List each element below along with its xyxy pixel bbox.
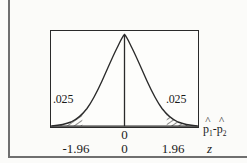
page-border-left-rule — [8, 0, 10, 157]
phat-two: ^p2 — [217, 122, 227, 138]
z-axis-tick-positive: 1.96 — [162, 141, 185, 157]
phat-one: ^p1 — [203, 122, 213, 138]
phat-two-subscript: 2 — [223, 129, 227, 138]
hat-accent-icon: ^ — [219, 115, 224, 126]
normal-curve-plot — [50, 30, 199, 128]
left-tail-area-label: .025 — [53, 92, 73, 107]
statistics-figure: .025 .025 0 -1.96 0 1.96 ^p1-^p2 z — [0, 0, 247, 163]
phat-difference-axis-label: ^p1-^p2 — [203, 122, 226, 138]
z-axis-label: z — [207, 141, 212, 157]
left-tail-shaded-region — [53, 114, 82, 126]
right-tail-shaded-region — [167, 114, 196, 126]
z-axis-tick-negative: -1.96 — [62, 141, 89, 157]
z-axis-tick-zero: 0 — [121, 141, 128, 157]
phat-one-subscript: 1 — [209, 129, 213, 138]
z-axis-tick-row: -1.96 0 1.96 — [50, 141, 199, 157]
right-tail-area-label: .025 — [166, 92, 186, 107]
hat-accent-icon: ^ — [205, 115, 210, 126]
